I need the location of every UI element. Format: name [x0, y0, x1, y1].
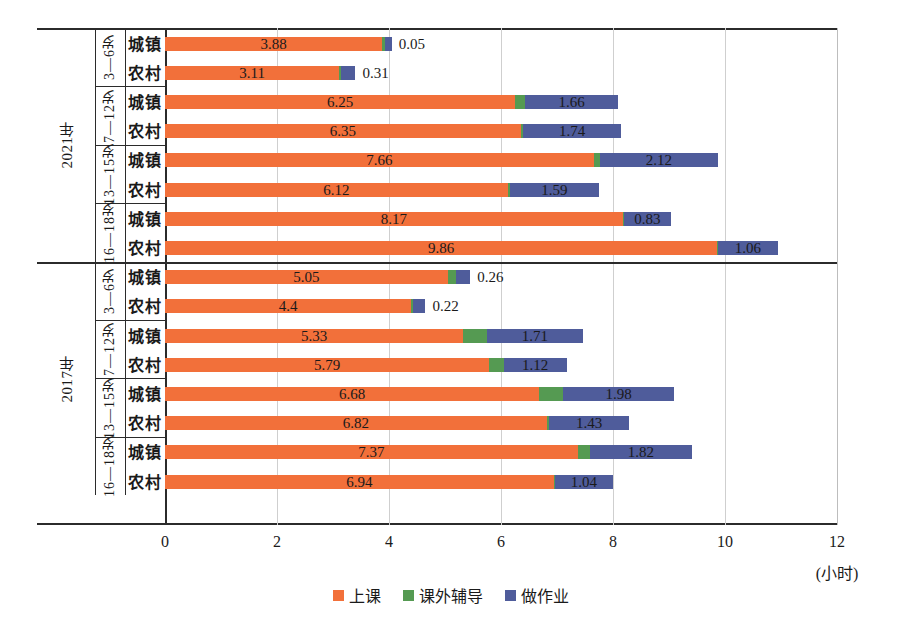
x-axis-tick-label: 12 [817, 533, 857, 551]
bar-value-label: 0.05 [399, 37, 425, 51]
residence-label: 城镇 [125, 379, 165, 408]
residence-label: 农村 [125, 57, 165, 86]
bar-value-label: 0.83 [624, 212, 670, 226]
bar-value-label: 7.66 [165, 153, 594, 167]
legend-item-0[interactable]: 上课 [333, 583, 381, 607]
legend-label: 做作业 [521, 583, 569, 607]
bar-segment-1 [463, 329, 487, 343]
bar-segment-1 [578, 445, 590, 459]
legend-swatch-icon [333, 590, 344, 601]
legend-item-1[interactable]: 课外辅导 [403, 583, 483, 607]
chart-page: 2021年3—6岁城镇农村7—12岁城镇农村13—15岁城镇农村16—18岁城镇… [0, 0, 901, 640]
residence-label: 农村 [125, 349, 165, 378]
age-group-label: 13—15岁 [95, 378, 125, 436]
bar-value-label: 4.4 [165, 299, 411, 313]
bar-value-label: 8.17 [165, 212, 623, 226]
residence-label: 城镇 [125, 145, 165, 174]
bar-segment-1 [489, 358, 504, 372]
x-axis-tick-label: 6 [481, 533, 521, 551]
x-axis-tick-label: 2 [257, 533, 297, 551]
residence-label: 农村 [125, 174, 165, 203]
x-axis-unit-label: (小时) [797, 560, 877, 584]
legend-swatch-icon [505, 590, 516, 601]
age-group-label: 3—6岁 [95, 262, 125, 320]
residence-label: 城镇 [125, 437, 165, 466]
legend-label: 上课 [349, 583, 381, 607]
residence-label: 城镇 [125, 87, 165, 116]
bar-value-label: 1.59 [510, 183, 599, 197]
legend-item-2[interactable]: 做作业 [505, 583, 569, 607]
residence-label: 城镇 [125, 320, 165, 349]
bar-segment-2 [385, 37, 392, 51]
year-axis-label: 2017年 [37, 262, 95, 496]
bar-value-label: 6.82 [165, 416, 547, 430]
residence-label: 农村 [125, 408, 165, 437]
bar-value-label: 1.66 [525, 95, 618, 109]
legend-swatch-icon [403, 590, 414, 601]
age-group-label-text: 3—6岁 [100, 34, 120, 80]
age-group-label-text: 13—15岁 [100, 377, 120, 439]
x-axis-tick-label: 4 [369, 533, 409, 551]
age-group-label: 7—12岁 [95, 320, 125, 378]
age-group-label-text: 13—15岁 [100, 143, 120, 205]
age-group-label-text: 7—12岁 [100, 89, 120, 143]
bar-segment-2 [456, 270, 471, 284]
residence-label: 城镇 [125, 203, 165, 232]
age-group-label: 3—6岁 [95, 28, 125, 86]
bar-value-label: 5.33 [165, 329, 463, 343]
gridline [725, 28, 726, 525]
residence-label: 农村 [125, 116, 165, 145]
bar-value-label: 1.04 [555, 475, 613, 489]
bar-value-label: 6.68 [165, 387, 539, 401]
legend: 上课课外辅导做作业 [0, 583, 901, 607]
age-group-label-text: 16—18岁 [100, 201, 120, 263]
year-axis-label-text: 2017年 [56, 355, 77, 403]
bar-segment-1 [448, 270, 456, 284]
bar-value-label: 5.05 [165, 270, 448, 284]
residence-label: 农村 [125, 233, 165, 262]
legend-label: 课外辅导 [419, 583, 483, 607]
bar-value-label: 1.12 [504, 358, 567, 372]
residence-label: 农村 [125, 466, 165, 495]
year-axis-label: 2021年 [37, 28, 95, 262]
bar-value-label: 6.35 [165, 124, 521, 138]
bar-value-label: 9.86 [165, 241, 717, 255]
bar-value-label: 1.74 [523, 124, 620, 138]
bar-segment-1 [539, 387, 563, 401]
bar-value-label: 6.12 [165, 183, 508, 197]
age-group-label-text: 16—18岁 [100, 435, 120, 497]
bar-value-label: 1.43 [549, 416, 629, 430]
bar-segment-2 [413, 299, 425, 313]
x-axis-tick-label: 0 [145, 533, 185, 551]
bar-value-label: 0.31 [362, 66, 388, 80]
age-group-label-text: 3—6岁 [100, 268, 120, 314]
bar-value-label: 0.26 [477, 270, 503, 284]
age-group-label: 16—18岁 [95, 203, 125, 261]
bar-segment-1 [515, 95, 525, 109]
x-axis-tick-label: 8 [593, 533, 633, 551]
bar-segment-2 [341, 66, 355, 80]
year-axis-label-text: 2021年 [56, 121, 77, 169]
bar-value-label: 1.82 [590, 445, 692, 459]
age-group-label: 7—12岁 [95, 86, 125, 144]
bar-value-label: 1.06 [718, 241, 777, 255]
bar-value-label: 0.22 [432, 299, 458, 313]
gridline [837, 28, 838, 525]
residence-label: 农村 [125, 291, 165, 320]
age-group-label: 13—15岁 [95, 145, 125, 203]
bar-value-label: 3.11 [165, 66, 339, 80]
bar-value-label: 5.79 [165, 358, 489, 372]
bar-value-label: 2.12 [600, 153, 719, 167]
residence-label: 城镇 [125, 28, 165, 57]
bar-value-label: 1.71 [487, 329, 583, 343]
bar-value-label: 6.94 [165, 475, 554, 489]
x-axis-tick-label: 10 [705, 533, 745, 551]
bar-value-label: 3.88 [165, 37, 382, 51]
bar-value-label: 1.98 [563, 387, 674, 401]
age-group-label: 16—18岁 [95, 437, 125, 495]
bar-value-label: 7.37 [165, 445, 578, 459]
residence-label: 城镇 [125, 262, 165, 291]
bar-value-label: 6.25 [165, 95, 515, 109]
age-group-label-text: 7—12岁 [100, 322, 120, 376]
